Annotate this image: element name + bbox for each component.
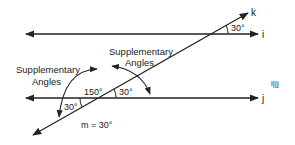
angle-top-right: 30° bbox=[231, 23, 245, 33]
line-j-label: j bbox=[261, 93, 264, 104]
supp-label-right-1: Supplementary bbox=[109, 46, 173, 57]
angle-middle-right: 30° bbox=[119, 87, 133, 97]
supp-label-left-1: Supplementary bbox=[16, 64, 80, 75]
angle-arc-bottom-left bbox=[80, 98, 82, 107]
supp-label-left-2: Angles bbox=[32, 76, 61, 87]
line-i-label: i bbox=[262, 29, 264, 40]
angle-arc-top-right bbox=[226, 25, 228, 34]
angle-arc-middle-right bbox=[114, 89, 116, 98]
supp-label-right-2: Angles bbox=[125, 57, 154, 68]
angle-bottom-left: 30° bbox=[64, 102, 78, 112]
angle-diagram: i j k i||j 30° 30° 150° 30° Supplementar… bbox=[0, 0, 295, 145]
line-k-label: k bbox=[251, 7, 257, 18]
equation: m = 30° bbox=[81, 120, 113, 130]
angle-middle-left: 150° bbox=[84, 87, 103, 97]
parallel-note: i||j bbox=[271, 79, 279, 88]
